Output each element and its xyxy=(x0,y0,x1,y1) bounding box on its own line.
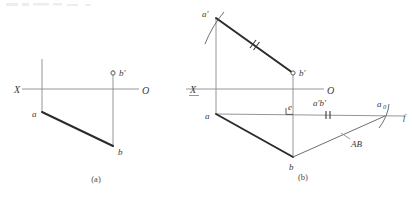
figure-b: X O a′ b′ a b e a 0 f AB a′b′ (b) xyxy=(186,9,407,182)
figure-a-point-label-a: a xyxy=(32,109,37,119)
figure-b-point-label-e: e xyxy=(288,102,292,112)
figure-b-base-construction-line xyxy=(216,114,404,116)
figure-b-segment-true-length-b-a0 xyxy=(293,116,385,157)
figure-a-point-label-b: b xyxy=(118,147,123,157)
figure-b-point-label-a0-base: a xyxy=(377,99,382,109)
figure-b-axis-label-o: O xyxy=(327,85,334,96)
figure-b-point-label-a-prime: a′ xyxy=(202,9,210,19)
figure-a-point-b-prime-marker xyxy=(111,71,115,75)
figure-a-caption: (a) xyxy=(91,174,101,184)
figure-b-point-label-a: a xyxy=(205,111,210,121)
figure-a-axis-label-o: O xyxy=(142,85,149,96)
figure-a-segment-ab xyxy=(42,112,113,146)
scan-artifact xyxy=(6,3,91,6)
figure-b-point-label-b-prime: b′ xyxy=(299,68,307,78)
drawing-canvas: X O a b b′ (a) xyxy=(0,0,412,199)
figure-a-axis-label-x: X xyxy=(13,84,21,95)
figure-b-point-label-b: b xyxy=(289,162,294,172)
figure-b-caption: (b) xyxy=(298,172,308,182)
figure-a-point-label-b-prime: b′ xyxy=(119,68,127,78)
figure-b-point-label-a0-subscript: 0 xyxy=(383,103,387,110)
figure-b-point-label-f: f xyxy=(403,112,407,122)
figure-b-point-b-prime-marker xyxy=(291,71,295,75)
figure-b-segment-ab xyxy=(216,114,293,157)
figure-b-segment-a-prime-b-prime xyxy=(216,18,293,73)
figure-b-measure-label-a-prime-b-prime: a′b′ xyxy=(313,98,327,108)
figure-b-axis-label-x: X xyxy=(189,84,197,95)
figure-root: X O a b b′ (a) xyxy=(0,0,412,199)
figure-b-point-label-a0: a 0 xyxy=(377,99,387,110)
figure-a: X O a b b′ (a) xyxy=(13,59,149,184)
figure-b-true-length-label: AB xyxy=(350,139,362,149)
